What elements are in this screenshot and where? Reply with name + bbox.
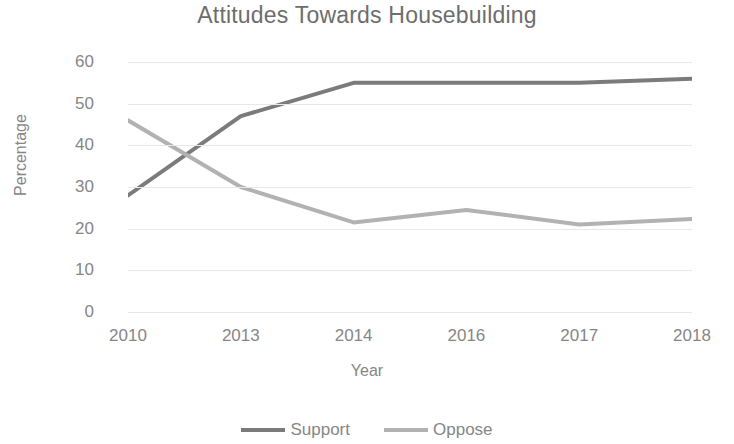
gridline — [128, 104, 692, 105]
x-axis-tick: 2017 — [539, 326, 619, 346]
legend-label: Oppose — [433, 420, 493, 440]
y-axis-tick: 20 — [28, 219, 94, 239]
plot-area — [128, 62, 692, 312]
y-axis-tick-labels: 0102030405060 — [28, 62, 104, 312]
gridline — [128, 312, 692, 313]
chart-legend: SupportOppose — [0, 420, 734, 440]
legend-swatch-icon — [241, 428, 285, 432]
chart-container: Attitudes Towards Housebuilding Percenta… — [0, 0, 734, 444]
y-axis-tick: 10 — [28, 260, 94, 280]
legend-label: Support — [290, 420, 350, 440]
x-axis-tick: 2013 — [201, 326, 281, 346]
x-axis-tick-labels: 201020132014201620172018 — [128, 326, 692, 350]
gridline — [128, 145, 692, 146]
y-axis-tick: 0 — [28, 302, 94, 322]
legend-swatch-icon — [384, 428, 428, 432]
y-axis-tick: 30 — [28, 177, 94, 197]
x-axis-title: Year — [0, 362, 734, 380]
gridline — [128, 62, 692, 63]
x-axis-tick: 2014 — [314, 326, 394, 346]
legend-item-support[interactable]: Support — [241, 420, 350, 440]
x-axis-tick: 2010 — [88, 326, 168, 346]
gridline — [128, 270, 692, 271]
gridline — [128, 187, 692, 188]
series-line-support — [128, 79, 692, 196]
x-axis-tick: 2016 — [426, 326, 506, 346]
chart-title: Attitudes Towards Housebuilding — [0, 2, 734, 29]
y-axis-tick: 40 — [28, 135, 94, 155]
x-axis-tick: 2018 — [652, 326, 732, 346]
gridline — [128, 229, 692, 230]
legend-item-oppose[interactable]: Oppose — [384, 420, 493, 440]
y-axis-tick: 60 — [28, 52, 94, 72]
y-axis-tick: 50 — [28, 94, 94, 114]
